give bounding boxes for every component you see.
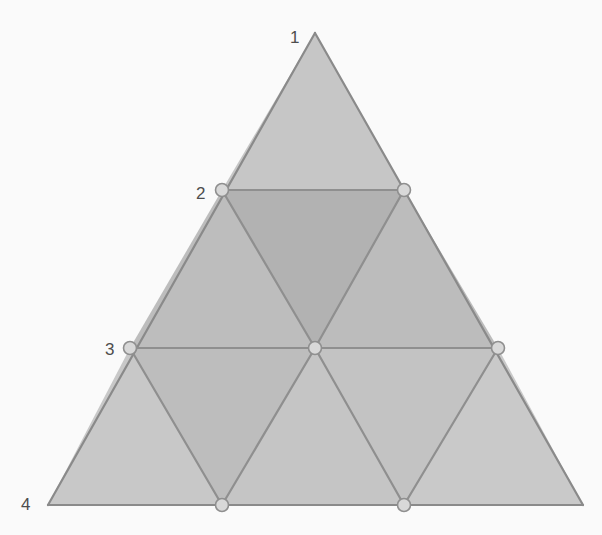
triangle-faces-group (48, 33, 583, 505)
label-4: 4 (21, 496, 30, 513)
triangle-mesh-diagram: 1234 (0, 0, 602, 535)
label-2: 2 (196, 185, 205, 202)
node-row1-right (398, 184, 411, 197)
node-row3-right (398, 499, 411, 512)
label-3: 3 (105, 341, 114, 358)
node-row2-right (492, 342, 505, 355)
node-row2-center (309, 342, 322, 355)
node-row3-left (216, 499, 229, 512)
label-1: 1 (290, 29, 299, 46)
mesh-canvas (0, 0, 602, 535)
node-row2-left (124, 342, 137, 355)
face-row1-up1 (222, 33, 404, 190)
node-row1-left (216, 184, 229, 197)
